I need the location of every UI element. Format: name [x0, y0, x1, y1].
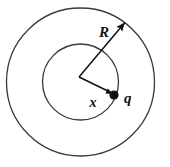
radius-label: R: [98, 24, 109, 40]
charge-dot: [109, 90, 118, 99]
figure-canvas: R q x: [0, 0, 170, 167]
charge-label: q: [124, 90, 132, 106]
physics-figure: R q x: [0, 0, 170, 167]
distance-label: x: [89, 95, 97, 110]
figure-background: [0, 0, 170, 167]
